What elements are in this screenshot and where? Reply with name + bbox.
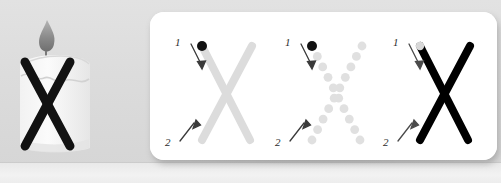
arrow-2-shaft — [398, 123, 412, 141]
stroke-number-1: 1 — [393, 37, 399, 48]
arrow-2-head — [303, 120, 311, 129]
stroke-number-2: 2 — [275, 137, 281, 148]
letter-x-solid-black — [382, 24, 498, 152]
illustration-cell — [0, 0, 146, 166]
stroke-number-1: 1 — [285, 37, 291, 48]
practice-cell-model-solid-black[interactable]: 1 2 — [382, 24, 498, 152]
worksheet-stage: 1 2 — [0, 0, 501, 183]
start-dot — [416, 42, 424, 50]
arrow-1-head — [308, 61, 316, 69]
practice-cell-trace-dotted[interactable]: 1 2 — [274, 24, 390, 152]
arrow-2-head — [411, 120, 419, 129]
arrow-2-shaft — [180, 123, 194, 141]
arrow-2-head — [193, 120, 201, 129]
start-dot — [307, 41, 317, 51]
letter-x-solid-gray — [164, 24, 280, 152]
background-footer-strip — [0, 163, 501, 183]
stroke-arrows — [180, 44, 206, 141]
arrow-2-shaft — [290, 123, 304, 141]
stroke-arrows — [398, 44, 424, 141]
stroke-number-2: 2 — [165, 137, 171, 148]
stroke-number-1: 1 — [175, 37, 181, 48]
letter-x-dotted — [274, 24, 390, 152]
illustration-letter-x — [0, 0, 146, 166]
arrow-1-head — [198, 61, 206, 69]
practice-cell-trace-solid-gray[interactable]: 1 2 — [164, 24, 280, 152]
stroke-arrows — [290, 44, 316, 141]
practice-panel: 1 2 — [150, 12, 497, 160]
stroke-number-2: 2 — [383, 137, 389, 148]
arrow-1-head — [416, 61, 424, 69]
start-dot — [197, 41, 207, 51]
